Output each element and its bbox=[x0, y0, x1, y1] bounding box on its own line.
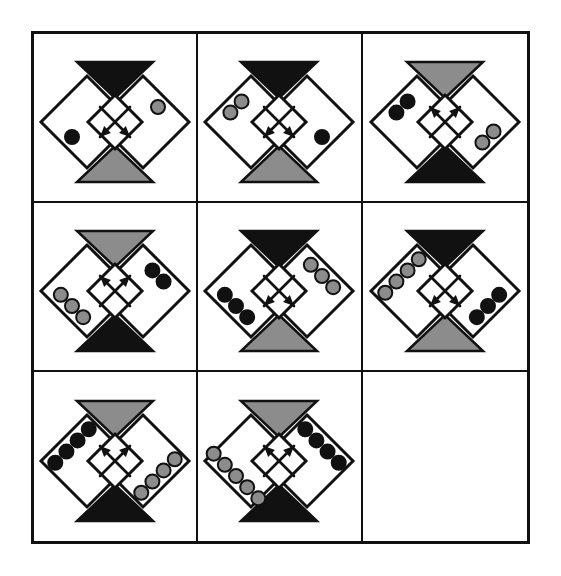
figure-4 bbox=[34, 205, 197, 369]
lower-dot bbox=[229, 299, 243, 313]
upper-dot bbox=[327, 280, 341, 294]
lower-dot bbox=[252, 491, 266, 505]
matrix-cell-6[interactable] bbox=[363, 203, 527, 372]
upper-dot bbox=[146, 263, 160, 277]
figure-1 bbox=[34, 36, 197, 200]
lower-dot bbox=[157, 463, 171, 477]
figure-8 bbox=[198, 375, 361, 539]
upper-dot bbox=[310, 433, 324, 447]
lower-dot bbox=[470, 310, 484, 324]
upper-dot bbox=[400, 94, 414, 108]
lower-dot bbox=[207, 446, 221, 460]
figure-5 bbox=[198, 205, 361, 369]
figure-2 bbox=[198, 36, 361, 200]
upper-dot bbox=[378, 285, 392, 299]
lower-dot bbox=[241, 310, 255, 324]
matrix-cell-5[interactable] bbox=[198, 203, 362, 372]
matrix-cell-9-missing[interactable] bbox=[363, 372, 527, 541]
upper-dot bbox=[48, 455, 62, 469]
upper-dot bbox=[299, 422, 313, 436]
upper-dot bbox=[389, 274, 403, 288]
lower-dot bbox=[134, 485, 148, 499]
matrix-cell-7[interactable] bbox=[34, 372, 198, 541]
figure-6 bbox=[363, 205, 527, 369]
upper-dot bbox=[71, 433, 85, 447]
puzzle-root bbox=[0, 0, 561, 576]
figure-9-empty bbox=[363, 375, 527, 539]
lower-dot bbox=[218, 287, 232, 301]
upper-dot bbox=[60, 444, 74, 458]
matrix-cell-3[interactable] bbox=[363, 34, 527, 203]
upper-dot bbox=[151, 100, 165, 114]
upper-dot bbox=[412, 252, 426, 266]
matrix-grid bbox=[31, 31, 530, 544]
lower-dot bbox=[486, 124, 500, 138]
matrix-cell-4[interactable] bbox=[34, 203, 198, 372]
figure-3 bbox=[363, 36, 527, 200]
lower-dot bbox=[65, 299, 79, 313]
upper-dot bbox=[389, 105, 403, 119]
upper-dot bbox=[235, 94, 249, 108]
matrix-cell-8[interactable] bbox=[198, 372, 362, 541]
lower-dot bbox=[481, 299, 495, 313]
lower-dot bbox=[54, 287, 68, 301]
lower-dot bbox=[492, 287, 506, 301]
upper-dot bbox=[315, 269, 329, 283]
lower-dot bbox=[146, 474, 160, 488]
matrix-cell-1[interactable] bbox=[34, 34, 198, 203]
upper-dot bbox=[304, 257, 318, 271]
matrix-cell-2[interactable] bbox=[198, 34, 362, 203]
upper-dot bbox=[400, 263, 414, 277]
upper-dot bbox=[157, 274, 171, 288]
upper-dot bbox=[224, 105, 238, 119]
lower-dot bbox=[315, 130, 329, 144]
lower-dot bbox=[475, 135, 489, 149]
lower-dot bbox=[76, 310, 90, 324]
lower-dot bbox=[65, 130, 79, 144]
upper-dot bbox=[82, 422, 96, 436]
lower-dot bbox=[168, 452, 182, 466]
upper-dot bbox=[332, 455, 346, 469]
lower-dot bbox=[229, 469, 243, 483]
lower-dot bbox=[218, 457, 232, 471]
upper-dot bbox=[321, 444, 335, 458]
figure-7 bbox=[34, 375, 197, 539]
lower-dot bbox=[241, 480, 255, 494]
